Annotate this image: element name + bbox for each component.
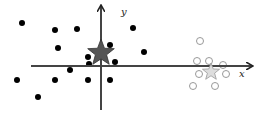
filled-point — [55, 45, 61, 51]
filled-point — [67, 67, 73, 73]
open-point — [212, 83, 219, 90]
filled-point — [85, 54, 91, 60]
class-b-points — [190, 38, 230, 90]
filled-point — [35, 94, 41, 100]
filled-point — [19, 20, 25, 26]
open-point — [194, 58, 201, 65]
filled-point — [74, 26, 80, 32]
filled-point — [85, 77, 91, 83]
y-axis-label: y — [120, 6, 127, 17]
filled-point — [107, 77, 113, 83]
class-a-points — [14, 20, 147, 100]
filled-point — [52, 27, 58, 33]
filled-point — [141, 49, 147, 55]
filled-point — [107, 42, 113, 48]
open-point — [197, 38, 204, 45]
filled-point — [14, 77, 20, 83]
filled-point — [112, 59, 118, 65]
filled-point — [130, 25, 136, 31]
scatter-diagram: y x — [0, 0, 267, 115]
filled-point — [52, 77, 58, 83]
open-point — [223, 71, 230, 78]
open-point — [196, 71, 203, 78]
x-axis-label: x — [239, 68, 245, 79]
open-point — [190, 83, 197, 90]
